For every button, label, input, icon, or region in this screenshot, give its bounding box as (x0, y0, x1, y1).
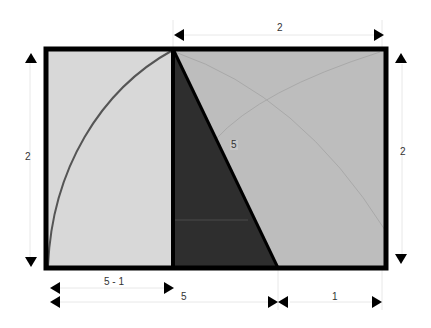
arrow-right-icon (164, 282, 174, 294)
bottom-right-segment-label: 1 (332, 292, 338, 302)
arrow-right-icon (372, 296, 382, 308)
right-height-label: 2 (400, 147, 406, 157)
arrow-down-icon (395, 254, 407, 264)
bottom-middle-label: 5 (181, 292, 187, 302)
arrow-left-icon (50, 296, 60, 308)
arrow-up-icon (395, 53, 407, 63)
hypotenuse-label: 5 (230, 140, 238, 150)
arrow-down-icon (25, 257, 37, 267)
left-square-panel (46, 49, 173, 268)
top-width-label: 2 (277, 23, 283, 33)
arrow-right-icon (268, 296, 278, 308)
golden-ratio-diagram (0, 0, 431, 328)
arrow-left-icon (174, 29, 184, 41)
arrow-left-icon (50, 282, 60, 294)
bottom-left-segment-label: 5 - 1 (104, 277, 124, 287)
arrow-left-icon (278, 296, 288, 308)
left-height-label: 2 (25, 152, 31, 162)
arrow-up-icon (25, 53, 37, 63)
